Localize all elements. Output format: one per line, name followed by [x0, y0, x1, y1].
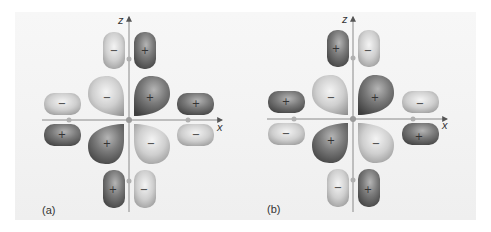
- x-axis-label: x: [216, 121, 223, 133]
- sign: +: [58, 129, 66, 140]
- sign: +: [141, 45, 149, 56]
- z-axis-label: z: [117, 14, 124, 26]
- node-top: [351, 56, 356, 61]
- panel-label-b: (b): [267, 203, 280, 215]
- z-axis-label: z: [341, 13, 348, 25]
- panel-label-a: (a): [42, 204, 55, 216]
- sign: −: [282, 128, 290, 139]
- node-left: [67, 118, 72, 123]
- sign: +: [415, 131, 423, 142]
- sign: −: [364, 45, 372, 56]
- sign: +: [327, 135, 335, 146]
- sign: +: [109, 184, 117, 195]
- node-bottom: [351, 178, 356, 183]
- sign: −: [110, 45, 118, 56]
- sign: −: [192, 129, 200, 140]
- sign: +: [103, 138, 111, 149]
- sign: +: [364, 184, 372, 195]
- sign: −: [372, 138, 380, 149]
- sign: +: [282, 96, 290, 107]
- node-left: [292, 117, 297, 122]
- node-origin: [350, 116, 356, 122]
- panel-a: − + − + + − − + + − + − z x (a): [42, 14, 223, 216]
- sign: +: [371, 92, 379, 103]
- sign: −: [416, 98, 424, 109]
- panel-b: + − − + + − + − − + − + z x (b): [267, 13, 448, 215]
- sign: +: [192, 98, 200, 109]
- sign: +: [146, 92, 154, 103]
- node-right: [411, 117, 416, 122]
- sign: −: [334, 182, 342, 193]
- sign: −: [327, 92, 335, 103]
- node-origin: [126, 117, 132, 123]
- orbital-figure: − + − + + − − + + − + − z x (a): [0, 0, 491, 232]
- sign: +: [332, 43, 340, 54]
- sign: −: [147, 138, 155, 149]
- x-axis-label: x: [441, 119, 448, 131]
- orbital-diagram-svg: − + − + + − − + + − + − z x (a): [0, 0, 491, 232]
- sign: −: [103, 92, 111, 103]
- sign: −: [140, 184, 148, 195]
- sign: −: [58, 98, 66, 109]
- node-top: [127, 57, 132, 62]
- node-right: [186, 118, 191, 123]
- node-bottom: [127, 179, 132, 184]
